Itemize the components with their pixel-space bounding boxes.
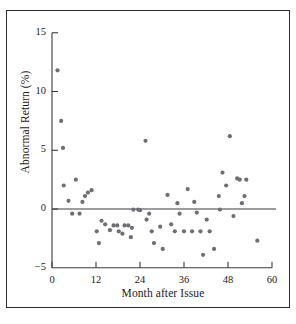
figure-container: Abnormal Return (%) Month after Issue −5… [0, 0, 296, 324]
x-tick-label: 36 [171, 274, 197, 285]
data-point [108, 228, 112, 232]
x-tick-label: 0 [39, 274, 65, 285]
data-point [59, 119, 63, 123]
y-tick-label: 0 [20, 202, 46, 213]
data-point [158, 225, 162, 229]
data-point [178, 212, 182, 216]
data-point [130, 226, 134, 230]
data-point [112, 223, 116, 227]
data-point [80, 200, 84, 204]
x-axis-label: Month after Issue [52, 287, 274, 299]
data-point [255, 239, 259, 243]
data-point [231, 214, 235, 218]
data-point [182, 229, 186, 233]
data-point [175, 201, 179, 205]
data-point [242, 194, 246, 198]
data-point [147, 212, 151, 216]
y-tick-label: 15 [20, 26, 46, 37]
data-point [143, 139, 147, 143]
data-point [61, 146, 65, 150]
data-point [95, 229, 99, 233]
data-point [103, 222, 107, 226]
data-point [138, 208, 142, 212]
data-point [169, 222, 173, 226]
data-point [201, 253, 205, 257]
data-point [129, 235, 133, 239]
data-point [77, 212, 81, 216]
data-points-group [55, 68, 259, 257]
data-point [150, 229, 154, 233]
data-point [55, 68, 59, 72]
data-point [66, 199, 70, 203]
data-point [217, 194, 221, 198]
x-tick-label: 12 [83, 274, 109, 285]
data-point [123, 223, 127, 227]
data-point [86, 190, 90, 194]
y-axis-label: Abnormal Return (%) [19, 37, 31, 207]
data-point [205, 217, 209, 221]
data-point [152, 241, 156, 245]
data-point [97, 241, 101, 245]
data-point [186, 187, 190, 191]
data-point [190, 229, 194, 233]
data-point [99, 219, 103, 223]
data-point [145, 217, 149, 221]
data-point [74, 178, 78, 182]
data-point [195, 210, 199, 214]
data-point [192, 200, 196, 204]
data-point [198, 229, 202, 233]
data-point [165, 193, 169, 197]
data-point [228, 134, 232, 138]
data-point [208, 229, 212, 233]
data-point [244, 178, 248, 182]
data-point [126, 223, 130, 227]
data-point [240, 201, 244, 205]
data-point [70, 212, 74, 216]
y-tick-label: 10 [20, 85, 46, 96]
data-point [224, 183, 228, 187]
data-point [161, 247, 165, 251]
x-tick-label: 24 [127, 274, 153, 285]
data-point [117, 229, 121, 233]
data-point [120, 232, 124, 236]
data-point [238, 178, 242, 182]
data-point [62, 183, 66, 187]
data-point [131, 207, 135, 211]
y-tick-label: −5 [20, 261, 46, 272]
data-point [90, 188, 94, 192]
data-point [83, 194, 87, 198]
data-point [173, 229, 177, 233]
data-point [218, 207, 222, 211]
y-tick-label: 5 [20, 143, 46, 154]
data-point [212, 247, 216, 251]
x-tick-label: 60 [259, 274, 285, 285]
data-point [220, 170, 224, 174]
data-point [115, 223, 119, 227]
x-tick-label: 48 [215, 274, 241, 285]
